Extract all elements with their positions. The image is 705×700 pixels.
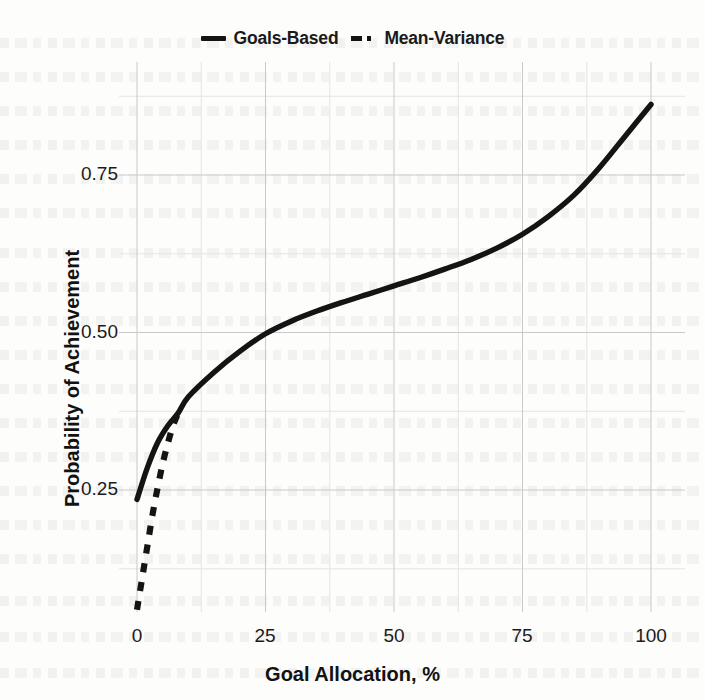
legend-item-mean-variance[interactable]: Mean-Variance [351, 28, 504, 49]
y-axis-label: Probability of Achievement [61, 169, 84, 589]
chart-legend: Goals-Based Mean-Variance [0, 28, 705, 49]
x-axis-label: Goal Allocation, % [0, 663, 705, 686]
legend-item-goals-based[interactable]: Goals-Based [201, 28, 339, 49]
chart-svg [0, 0, 705, 700]
x-tick-label-50: 50 [364, 625, 424, 647]
x-tick-label-25: 25 [235, 625, 295, 647]
legend-label-mean-variance: Mean-Variance [384, 28, 504, 49]
x-tick-label-100: 100 [621, 625, 681, 647]
x-tick-label-0: 0 [107, 625, 167, 647]
solid-line-swatch-icon [201, 36, 226, 41]
legend-label-goals-based: Goals-Based [234, 28, 339, 49]
x-tick-label-75: 75 [492, 625, 552, 647]
plot-area [0, 0, 705, 700]
dashed-line-swatch-icon [351, 36, 376, 41]
major-gridlines [119, 62, 685, 612]
minor-gridlines [119, 62, 685, 612]
